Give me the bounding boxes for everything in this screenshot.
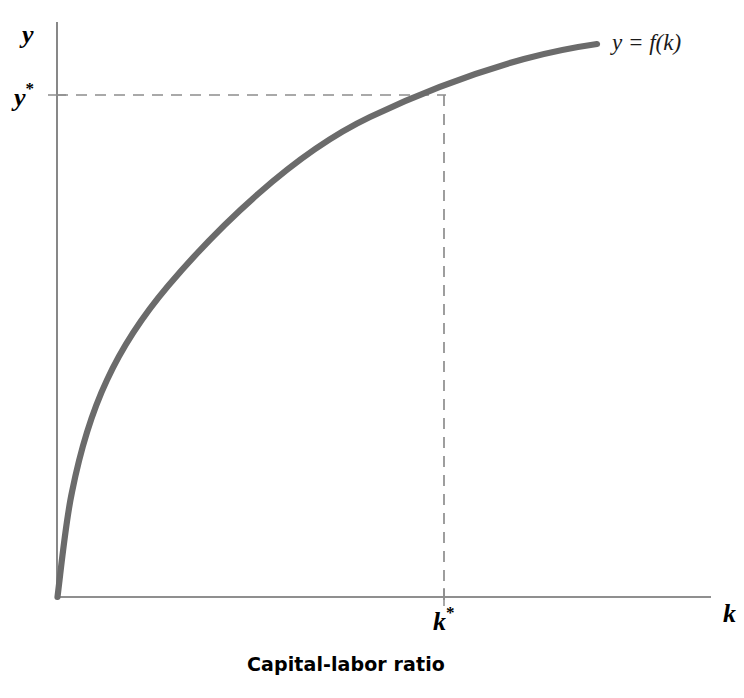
y-axis-label: y bbox=[22, 22, 34, 48]
y-star-asterisk: * bbox=[26, 79, 35, 98]
figure-background bbox=[0, 0, 744, 698]
k-star-label: k* bbox=[433, 606, 455, 635]
figure-caption: Capital-labor ratio bbox=[247, 655, 445, 674]
x-axis-label: k bbox=[723, 601, 736, 627]
production-function-figure bbox=[0, 0, 744, 698]
y-star-letter: y bbox=[14, 83, 26, 112]
curve-equation-label: y = f(k) bbox=[612, 31, 681, 54]
k-star-letter: k bbox=[433, 607, 446, 636]
k-star-asterisk: * bbox=[446, 603, 455, 622]
y-star-label: y* bbox=[14, 82, 34, 111]
